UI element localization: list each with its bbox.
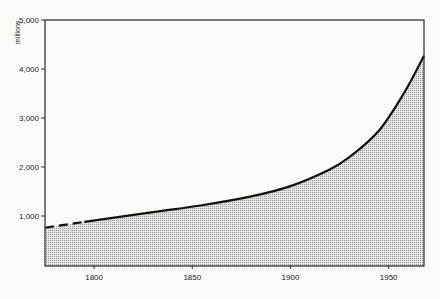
y-axis: 1,0002,0003,0004,0005,000 (19, 16, 45, 221)
shaded-area (45, 56, 424, 266)
y-tick-label: 1,000 (19, 212, 40, 221)
y-tick-label: 5,000 (19, 16, 40, 25)
x-tick-label: 1800 (85, 273, 103, 282)
y-axis-unit-label: millions (14, 20, 21, 44)
x-axis: 1800185019001950 (85, 265, 398, 282)
y-tick-label: 2,000 (19, 163, 40, 172)
y-tick-label: 4,000 (19, 65, 40, 74)
x-tick-label: 1850 (183, 273, 201, 282)
y-tick-label: 3,000 (19, 114, 40, 123)
population-chart: 1,0002,0003,0004,0005,000 18001850190019… (0, 0, 440, 299)
x-tick-label: 1900 (282, 273, 300, 282)
x-tick-label: 1950 (380, 273, 398, 282)
